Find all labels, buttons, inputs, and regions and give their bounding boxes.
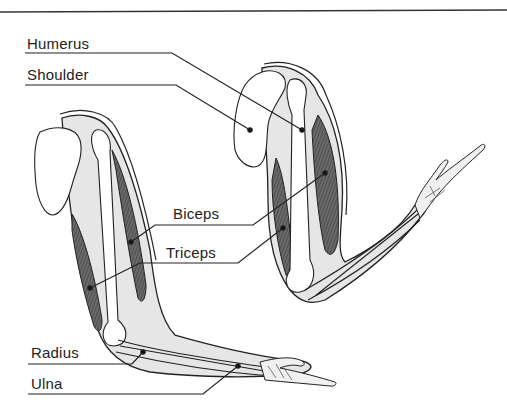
extended-arm-hand: [260, 358, 336, 386]
label-shoulder: Shoulder: [27, 67, 89, 82]
label-humerus: Humerus: [27, 36, 89, 51]
label-triceps: Triceps: [166, 245, 216, 260]
shoulder-leader: [25, 85, 250, 130]
top-rule: [0, 10, 507, 12]
label-biceps: Biceps: [173, 206, 219, 221]
bent-arm: [234, 62, 485, 302]
label-radius: Radius: [31, 345, 79, 360]
arm-anatomy-diagram: Humerus Shoulder Biceps Triceps Radius U…: [0, 0, 507, 406]
label-ulna: Ulna: [31, 376, 63, 391]
bent-arm-hand: [415, 144, 485, 218]
